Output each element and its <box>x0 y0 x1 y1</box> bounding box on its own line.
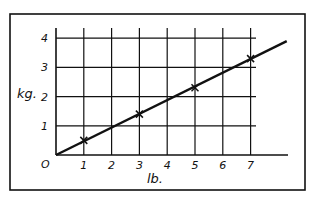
x-tick-label: 7 <box>247 159 254 172</box>
y-tick-labels: 1234 <box>41 32 48 133</box>
x-tick-label: 5 <box>192 159 199 172</box>
x-tick-label: 1 <box>80 159 87 172</box>
chart: 1234567 1234 O lb. kg. <box>0 0 314 197</box>
x-tick-labels: 1234567 <box>80 159 254 172</box>
origin-label: O <box>41 158 50 171</box>
series <box>56 41 287 155</box>
x-tick-label: 3 <box>136 159 143 172</box>
chart-frame <box>10 14 305 190</box>
grid <box>56 28 256 155</box>
y-tick-label: 3 <box>41 61 48 74</box>
y-tick-label: 2 <box>41 91 48 104</box>
x-tick-label: 4 <box>164 159 171 172</box>
y-axis-label: kg. <box>17 86 37 101</box>
y-tick-label: 1 <box>41 120 48 133</box>
y-tick-label: 4 <box>41 32 48 45</box>
x-tick-label: 2 <box>108 159 115 172</box>
x-tick-label: 6 <box>219 159 226 172</box>
x-axis-label: lb. <box>147 171 163 186</box>
trend-line <box>56 41 287 155</box>
